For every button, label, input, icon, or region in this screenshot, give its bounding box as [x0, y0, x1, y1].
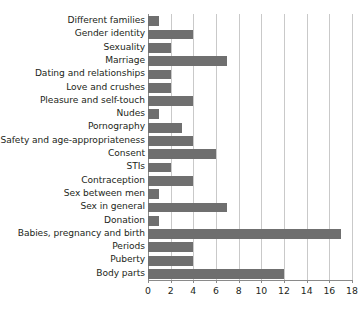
bar[interactable] [148, 229, 341, 239]
bar[interactable] [148, 189, 159, 199]
x-axis-tick-label: 8 [227, 285, 251, 296]
bar[interactable] [148, 83, 171, 93]
y-axis-tick-label: Nudes [0, 107, 145, 120]
x-axis-tick-label: 0 [136, 285, 160, 296]
bar-chart: Different familiesGender identitySexuali… [0, 0, 364, 313]
y-axis-tick-label: Safety and age-appropriateness [0, 134, 145, 147]
y-axis-tick-label: Dating and relationships [0, 67, 145, 80]
x-axis-tick-label: 16 [317, 285, 341, 296]
bar-row [148, 267, 352, 280]
bar-row [148, 14, 352, 27]
bar-row [148, 174, 352, 187]
x-axis-line [148, 280, 353, 281]
x-axis-tick-label: 4 [181, 285, 205, 296]
bar[interactable] [148, 96, 193, 106]
x-axis-tick-label: 14 [295, 285, 319, 296]
bar[interactable] [148, 216, 159, 226]
bar-row [148, 200, 352, 213]
bar-row [148, 107, 352, 120]
y-axis-tick-label: STIs [0, 160, 145, 173]
bar-row [148, 41, 352, 54]
bar-row [148, 27, 352, 40]
x-axis-tick-label: 2 [159, 285, 183, 296]
bar-row [148, 94, 352, 107]
bar[interactable] [148, 163, 171, 173]
bar[interactable] [148, 242, 193, 252]
bar-row [148, 160, 352, 173]
x-axis-tick-label: 6 [204, 285, 228, 296]
bar[interactable] [148, 123, 182, 133]
bar[interactable] [148, 149, 216, 159]
y-axis-tick-label: Gender identity [0, 27, 145, 40]
y-axis-category-labels: Different familiesGender identitySexuali… [0, 14, 145, 280]
bar-row [148, 187, 352, 200]
y-axis-tick-label: Pornography [0, 120, 145, 133]
x-axis-tick-label: 12 [272, 285, 296, 296]
bar[interactable] [148, 256, 193, 266]
bar-row [148, 147, 352, 160]
bar-rows [148, 14, 352, 280]
y-axis-tick-label: Love and crushes [0, 81, 145, 94]
y-axis-tick-label: Pleasure and self-touch [0, 94, 145, 107]
bar-row [148, 240, 352, 253]
y-axis-tick-label: Babies, pregnancy and birth [0, 227, 145, 240]
bar-row [148, 81, 352, 94]
y-axis-tick-label: Periods [0, 240, 145, 253]
gridline-18 [352, 14, 353, 280]
bar[interactable] [148, 30, 193, 40]
y-axis-tick-label: Donation [0, 214, 145, 227]
bar[interactable] [148, 16, 159, 26]
bar-row [148, 67, 352, 80]
plot-area [148, 14, 352, 280]
bar-row [148, 134, 352, 147]
y-axis-tick-label: Marriage [0, 54, 145, 67]
bar-row [148, 54, 352, 67]
y-axis-tick-label: Puberty [0, 253, 145, 266]
y-axis-tick-label: Different families [0, 14, 145, 27]
bar-row [148, 214, 352, 227]
y-axis-tick-label: Sexuality [0, 41, 145, 54]
bar[interactable] [148, 203, 227, 213]
bar[interactable] [148, 56, 227, 66]
x-axis-tick-label: 18 [340, 285, 364, 296]
bar-row [148, 227, 352, 240]
bar-row [148, 253, 352, 266]
bar[interactable] [148, 109, 159, 119]
bar[interactable] [148, 136, 193, 146]
bar-row [148, 120, 352, 133]
bar[interactable] [148, 269, 284, 279]
y-axis-tick-label: Contraception [0, 174, 145, 187]
bar[interactable] [148, 43, 171, 53]
y-axis-tick-label: Sex between men [0, 187, 145, 200]
bar[interactable] [148, 70, 171, 80]
y-axis-tick-label: Body parts [0, 267, 145, 280]
bar[interactable] [148, 176, 193, 186]
y-axis-tick-label: Consent [0, 147, 145, 160]
y-axis-tick-label: Sex in general [0, 200, 145, 213]
x-axis-tick-label: 10 [249, 285, 273, 296]
